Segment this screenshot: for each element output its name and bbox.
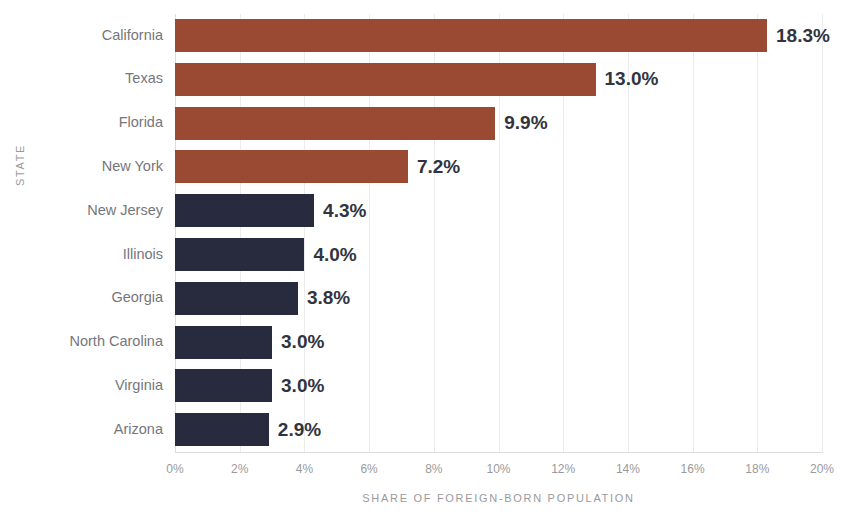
bar-row[interactable]: 7.2%: [175, 150, 822, 183]
bar-value-label: 3.0%: [281, 375, 324, 397]
x-tick-label: 2%: [231, 462, 248, 476]
category-label: Texas: [3, 70, 163, 86]
bar-value-label: 13.0%: [605, 68, 659, 90]
bar-value-label: 4.3%: [323, 200, 366, 222]
x-tick-label: 20%: [810, 462, 834, 476]
x-tick-label: 8%: [425, 462, 442, 476]
category-label: Illinois: [3, 246, 163, 262]
bar-value-label: 3.8%: [307, 287, 350, 309]
x-tick-label: 0%: [166, 462, 183, 476]
bar-row[interactable]: 3.0%: [175, 369, 822, 402]
x-axis-baseline: [175, 452, 823, 453]
x-tick-label: 10%: [486, 462, 510, 476]
plot-area: 18.3%13.0%9.9%7.2%4.3%4.0%3.8%3.0%3.0%2.…: [175, 14, 822, 452]
gridline: [822, 14, 823, 452]
category-label-column: CaliforniaTexasFloridaNew YorkNew Jersey…: [0, 14, 163, 452]
x-tick-label: 18%: [745, 462, 769, 476]
category-label: Arizona: [3, 421, 163, 437]
bar-row[interactable]: 13.0%: [175, 63, 822, 96]
bar-value-label: 3.0%: [281, 331, 324, 353]
bar[interactable]: [175, 326, 272, 359]
bar[interactable]: [175, 413, 269, 446]
bar-row[interactable]: 4.0%: [175, 238, 822, 271]
bar[interactable]: [175, 282, 298, 315]
bar-value-label: 9.9%: [504, 112, 547, 134]
x-tick-label: 12%: [551, 462, 575, 476]
bar-chart: STATE CaliforniaTexasFloridaNew YorkNew …: [0, 0, 860, 525]
x-tick-label: 16%: [681, 462, 705, 476]
bar-row[interactable]: 9.9%: [175, 107, 822, 140]
bar-row[interactable]: 4.3%: [175, 194, 822, 227]
bar[interactable]: [175, 63, 596, 96]
category-label: California: [3, 27, 163, 43]
x-tick-label: 4%: [296, 462, 313, 476]
bar[interactable]: [175, 150, 408, 183]
bar-row[interactable]: 3.0%: [175, 326, 822, 359]
bar-value-label: 7.2%: [417, 156, 460, 178]
x-tick-label: 14%: [616, 462, 640, 476]
bar[interactable]: [175, 238, 304, 271]
bar[interactable]: [175, 194, 314, 227]
bar-value-label: 18.3%: [776, 25, 830, 47]
bar-row[interactable]: 18.3%: [175, 19, 822, 52]
category-label: Virginia: [3, 377, 163, 393]
bar-row[interactable]: 2.9%: [175, 413, 822, 446]
bar-value-label: 4.0%: [313, 244, 356, 266]
bar[interactable]: [175, 369, 272, 402]
bar[interactable]: [175, 19, 767, 52]
category-label: Georgia: [3, 289, 163, 305]
category-label: New York: [3, 158, 163, 174]
x-axis-title: SHARE OF FOREIGN-BORN POPULATION: [175, 492, 822, 504]
bar-row[interactable]: 3.8%: [175, 282, 822, 315]
category-label: Florida: [3, 114, 163, 130]
category-label: North Carolina: [3, 333, 163, 349]
bar[interactable]: [175, 107, 495, 140]
category-label: New Jersey: [3, 202, 163, 218]
bar-value-label: 2.9%: [278, 419, 321, 441]
x-tick-label: 6%: [360, 462, 377, 476]
